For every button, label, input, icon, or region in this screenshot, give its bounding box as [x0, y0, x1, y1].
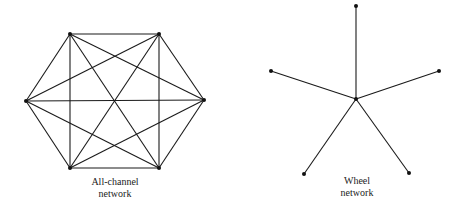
network-node: [302, 172, 306, 176]
all-channel-network: [24, 32, 206, 170]
diagram-canvas: All-channel network Wheel network: [0, 0, 458, 211]
channel-edge: [159, 100, 204, 168]
channel-edge: [70, 100, 204, 168]
wheel-network: [269, 4, 441, 176]
network-node: [157, 166, 161, 170]
network-node: [407, 171, 411, 175]
network-node: [354, 4, 358, 8]
channel-edge: [26, 34, 70, 101]
network-node: [68, 166, 72, 170]
network-node: [269, 69, 273, 73]
network-node: [437, 69, 441, 73]
spoke-edge: [356, 71, 439, 99]
channel-edge: [159, 34, 204, 100]
spoke-edge: [304, 99, 356, 174]
network-node: [68, 32, 72, 36]
all-channel-label-line2: network: [99, 188, 132, 199]
wheel-label-line2: network: [341, 187, 374, 198]
network-node: [202, 98, 206, 102]
network-node: [157, 32, 161, 36]
channel-edge: [26, 100, 204, 101]
channel-edge: [26, 101, 70, 168]
channel-edge: [26, 101, 159, 168]
all-channel-label-line1: All-channel: [91, 176, 138, 187]
wheel-label-line1: Wheel: [344, 175, 370, 186]
network-node: [24, 99, 28, 103]
hub-node: [354, 97, 358, 101]
spoke-edge: [356, 99, 409, 173]
spoke-edge: [271, 71, 356, 99]
